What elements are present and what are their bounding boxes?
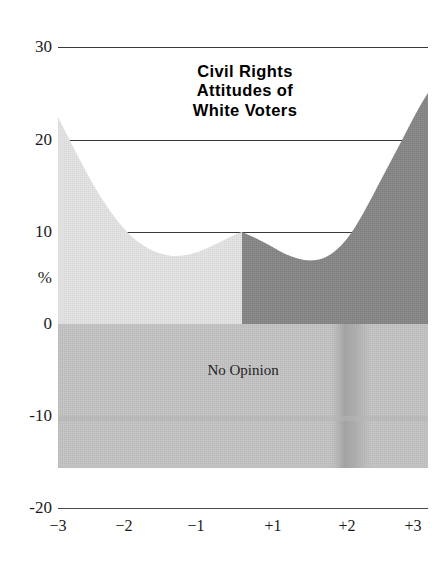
gridline-neg20 — [58, 508, 428, 509]
xtick-label-neg1: −1 — [176, 518, 216, 534]
xtick-label-pos3: +3 — [393, 518, 433, 534]
ytick-text-neg10: -10 — [29, 407, 52, 424]
y-axis-label: % — [0, 268, 52, 288]
annotation-no-opinion: No Opinion — [178, 362, 308, 379]
ytick-text-30: 30 — [35, 38, 52, 55]
title-line-3: White Voters — [145, 101, 345, 120]
title-line-2: Attitudes of — [145, 81, 345, 100]
xtick-label-neg3: −3 — [38, 518, 78, 534]
series-no-opinion — [58, 324, 428, 468]
title-line-1: Civil Rights — [145, 62, 345, 81]
ytick-text-10: 10 — [35, 223, 52, 240]
ytick-text-20: 20 — [35, 131, 52, 148]
series-liberal-light — [58, 117, 242, 324]
ytick-text-neg20: -20 — [29, 499, 52, 516]
ytick-text-0: 0 — [44, 315, 53, 332]
chart-area: Civil Rights Attitudes of White Voters N… — [0, 0, 445, 563]
chart-title: Civil Rights Attitudes of White Voters — [145, 62, 345, 120]
xtick-label-pos1: +1 — [253, 518, 293, 534]
xtick-label-neg2: −2 — [104, 518, 144, 534]
xtick-label-pos2: +2 — [327, 518, 367, 534]
series-conservative-dark — [242, 93, 428, 324]
